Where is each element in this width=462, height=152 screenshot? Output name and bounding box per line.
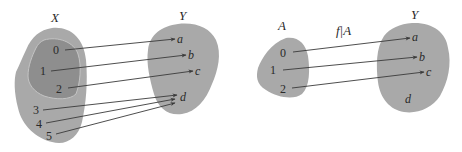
- a-element-0: 0: [280, 46, 286, 60]
- left-diagram: X Y 0 1 2 3 4 5 a b c d: [15, 8, 219, 143]
- y-element-d-right: d: [405, 92, 412, 106]
- a-element-1: 1: [270, 63, 276, 77]
- y-element-b-left: b: [188, 48, 194, 62]
- y-element-a-left: a: [177, 32, 183, 46]
- set-y-label-right: Y: [411, 7, 420, 22]
- function-restriction-label: f|A: [336, 23, 351, 38]
- y-element-c-left: c: [195, 64, 201, 78]
- function-restriction-diagram: X Y 0 1 2 3 4 5 a b c d A f|A Y 0 1 2: [0, 0, 462, 152]
- y-element-d-left: d: [180, 90, 187, 104]
- y-element-a-right: a: [412, 30, 418, 44]
- x-element-4: 4: [36, 117, 42, 131]
- set-a-label: A: [277, 18, 286, 33]
- x-element-3: 3: [33, 103, 39, 117]
- right-diagram: A f|A Y 0 1 2 a b c d: [257, 7, 450, 112]
- x-element-2: 2: [56, 82, 62, 96]
- set-y-label-left: Y: [179, 8, 188, 23]
- a-element-2: 2: [280, 82, 286, 96]
- y-element-c-right: c: [426, 65, 432, 79]
- y-element-b-right: b: [419, 50, 425, 64]
- x-element-5: 5: [46, 129, 52, 143]
- x-element-0: 0: [53, 43, 59, 57]
- set-x-label: X: [50, 10, 60, 25]
- x-element-1: 1: [40, 64, 46, 78]
